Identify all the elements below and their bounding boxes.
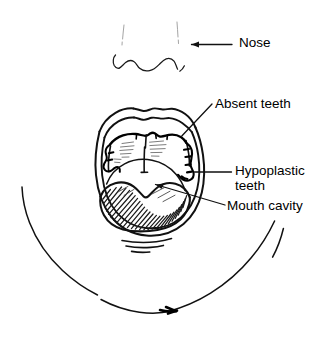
upper-gum-ridge [110,133,186,145]
label-nose: Nose [239,35,271,50]
nose-bridge-strokes [122,22,179,45]
palatal-midline [141,135,147,173]
label-hypoplastic-teeth: Hypoplastic teeth [235,163,327,193]
label-absent-teeth: Absent teeth [215,96,291,111]
mouth-cavity-arch [107,159,185,190]
nose-nostrils [113,55,184,71]
nose-leader-arrow [192,42,233,48]
figure-container: Nose Absent teeth Hypoplastic teeth Mout… [0,0,328,345]
label-mouth-cavity: Mouth cavity [227,198,303,213]
chin-crease [122,239,172,253]
teeth-remnants-right [178,143,194,181]
